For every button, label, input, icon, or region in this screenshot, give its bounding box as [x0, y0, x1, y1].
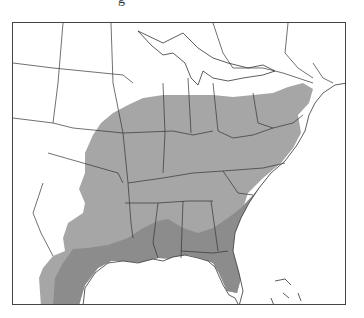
range-map — [13, 23, 346, 305]
map-frame — [12, 22, 346, 305]
great-lakes — [138, 31, 275, 85]
caption-fragment: g — [118, 0, 125, 7]
